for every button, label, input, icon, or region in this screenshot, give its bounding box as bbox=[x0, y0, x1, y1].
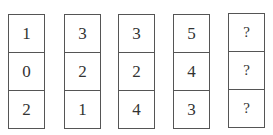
cell: 3 bbox=[65, 15, 100, 53]
column-3: 3 2 4 bbox=[118, 14, 155, 129]
column-5-unknown: ? ? ? bbox=[228, 13, 265, 128]
unknown-cell: ? bbox=[229, 14, 264, 52]
cell: 3 bbox=[174, 91, 209, 128]
cell: 0 bbox=[9, 53, 44, 91]
cell: 4 bbox=[119, 91, 154, 128]
cell: 1 bbox=[9, 15, 44, 53]
cell: 4 bbox=[174, 53, 209, 91]
unknown-cell: ? bbox=[229, 52, 264, 90]
column-4: 5 4 3 bbox=[173, 14, 210, 129]
cell: 1 bbox=[65, 91, 100, 128]
cell: 3 bbox=[119, 15, 154, 53]
cell: 5 bbox=[174, 15, 209, 53]
cell: 2 bbox=[9, 91, 44, 128]
column-2: 3 2 1 bbox=[64, 14, 101, 129]
cell: 2 bbox=[65, 53, 100, 91]
unknown-cell: ? bbox=[229, 90, 264, 127]
cell: 2 bbox=[119, 53, 154, 91]
column-1: 1 0 2 bbox=[8, 14, 45, 129]
